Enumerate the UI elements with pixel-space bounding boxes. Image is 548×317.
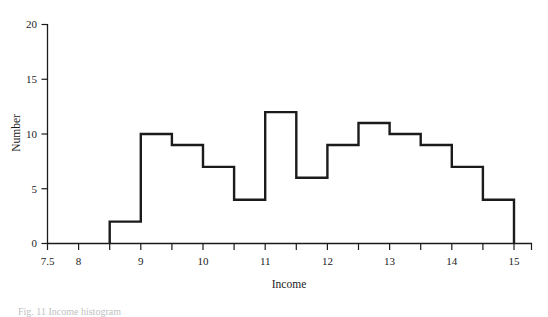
x-tick-label-12: 12 xyxy=(322,255,333,267)
x-tick-label-15: 15 xyxy=(509,255,521,267)
y-axis-ticks xyxy=(42,25,48,244)
x-axis-ticks xyxy=(48,244,532,251)
x-tick-label-13: 13 xyxy=(384,255,396,267)
x-tick-label-9: 9 xyxy=(138,255,144,267)
x-tick-label-7.5: 7.5 xyxy=(41,255,55,267)
y-tick-label-0: 0 xyxy=(32,237,38,249)
y-tick-label-20: 20 xyxy=(26,18,38,30)
x-tick-label-10: 10 xyxy=(198,255,210,267)
figure-caption: Fig. 11 Income histogram xyxy=(18,306,121,317)
x-tick-label-14: 14 xyxy=(446,255,458,267)
x-tick-label-8: 8 xyxy=(76,255,82,267)
y-axis-title: Number xyxy=(10,114,22,152)
histogram-step-outline xyxy=(110,112,514,243)
y-tick-label-10: 10 xyxy=(26,128,38,140)
x-axis-title: Income xyxy=(272,278,306,290)
y-tick-label-5: 5 xyxy=(32,183,38,195)
y-tick-label-15: 15 xyxy=(26,73,38,85)
x-tick-label-11: 11 xyxy=(260,255,271,267)
